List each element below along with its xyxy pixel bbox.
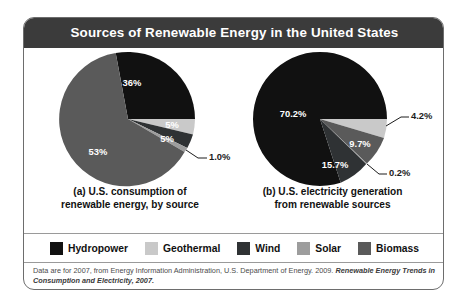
legend-swatch-geothermal [145, 242, 158, 255]
legend-label-biomass: Biomass [376, 243, 419, 254]
legend-swatch-hydropower [50, 242, 63, 255]
legend-label-wind: Wind [255, 243, 280, 254]
legend: Hydropower Geothermal Wind Solar Biomass [24, 233, 444, 263]
pie-b-leader-geothermal [386, 117, 409, 126]
figure-footnote: Data are for 2007, from Energy Informati… [33, 266, 437, 287]
pie-b-label-wind: 15.7% [322, 159, 349, 170]
pie-a-label-hydropower: 36% [123, 77, 142, 88]
figure-frame: Sources of Renewable Energy in the Unite… [23, 17, 444, 290]
pie-chart-a: 36% 5% 5% 53% 1.0% (a) U.S. consumption … [32, 49, 228, 233]
legend-swatch-wind [237, 242, 250, 255]
pie-a-svg: 36% 5% 5% 53% 1.0% [32, 53, 228, 185]
figure-title-bar: Sources of Renewable Energy in the Unite… [23, 17, 444, 48]
charts-area: 36% 5% 5% 53% 1.0% (a) U.S. consumption … [24, 49, 444, 233]
pie-a-label-geothermal: 5% [165, 119, 179, 130]
legend-item-geothermal[interactable]: Geothermal [145, 242, 220, 255]
pie-a-canvas: 36% 5% 5% 53% 1.0% [32, 53, 228, 185]
pie-b-caption: (b) U.S. electricity generation from ren… [220, 186, 444, 211]
pie-b-label-biomass: 9.7% [349, 138, 371, 149]
legend-label-hydropower: Hydropower [68, 243, 128, 254]
pie-chart-b: 70.2% 9.7% 15.7% 4.2% 0.2% (b) U.S. elec… [220, 49, 444, 233]
pie-b-caption-line1: (b) U.S. electricity generation [220, 186, 444, 199]
legend-label-solar: Solar [315, 243, 341, 254]
pie-a-caption-line2: renewable energy, by source [32, 199, 228, 212]
pie-a-caption-line1: (a) U.S. consumption of [32, 186, 228, 199]
legend-label-geothermal: Geothermal [163, 243, 220, 254]
pie-b-label-solar: 0.2% [389, 167, 411, 178]
legend-swatch-biomass [358, 242, 371, 255]
legend-item-hydropower[interactable]: Hydropower [50, 242, 128, 255]
pie-a-caption: (a) U.S. consumption of renewable energy… [32, 186, 228, 211]
footnote-prefix: Data are for 2007, from Energy Informati… [33, 266, 335, 275]
legend-item-biomass[interactable]: Biomass [358, 242, 419, 255]
pie-b-slice-hydropower[interactable] [253, 52, 387, 186]
pie-b-leader-solar [367, 164, 387, 174]
figure-title: Sources of Renewable Energy in the Unite… [71, 25, 399, 40]
pie-a-label-biomass: 53% [89, 146, 108, 157]
pie-b-caption-line2: from renewable sources [220, 199, 444, 212]
legend-item-wind[interactable]: Wind [237, 242, 280, 255]
legend-item-solar[interactable]: Solar [297, 242, 341, 255]
pie-b-label-geothermal: 4.2% [411, 110, 433, 121]
pie-b-svg: 70.2% 9.7% 15.7% 4.2% 0.2% [220, 53, 444, 185]
legend-swatch-solar [297, 242, 310, 255]
pie-b-canvas: 70.2% 9.7% 15.7% 4.2% 0.2% [220, 53, 444, 185]
pie-a-label-wind: 5% [160, 133, 174, 144]
pie-b-label-hydropower: 70.2% [280, 108, 307, 119]
pie-a-leader-solar [186, 150, 207, 158]
